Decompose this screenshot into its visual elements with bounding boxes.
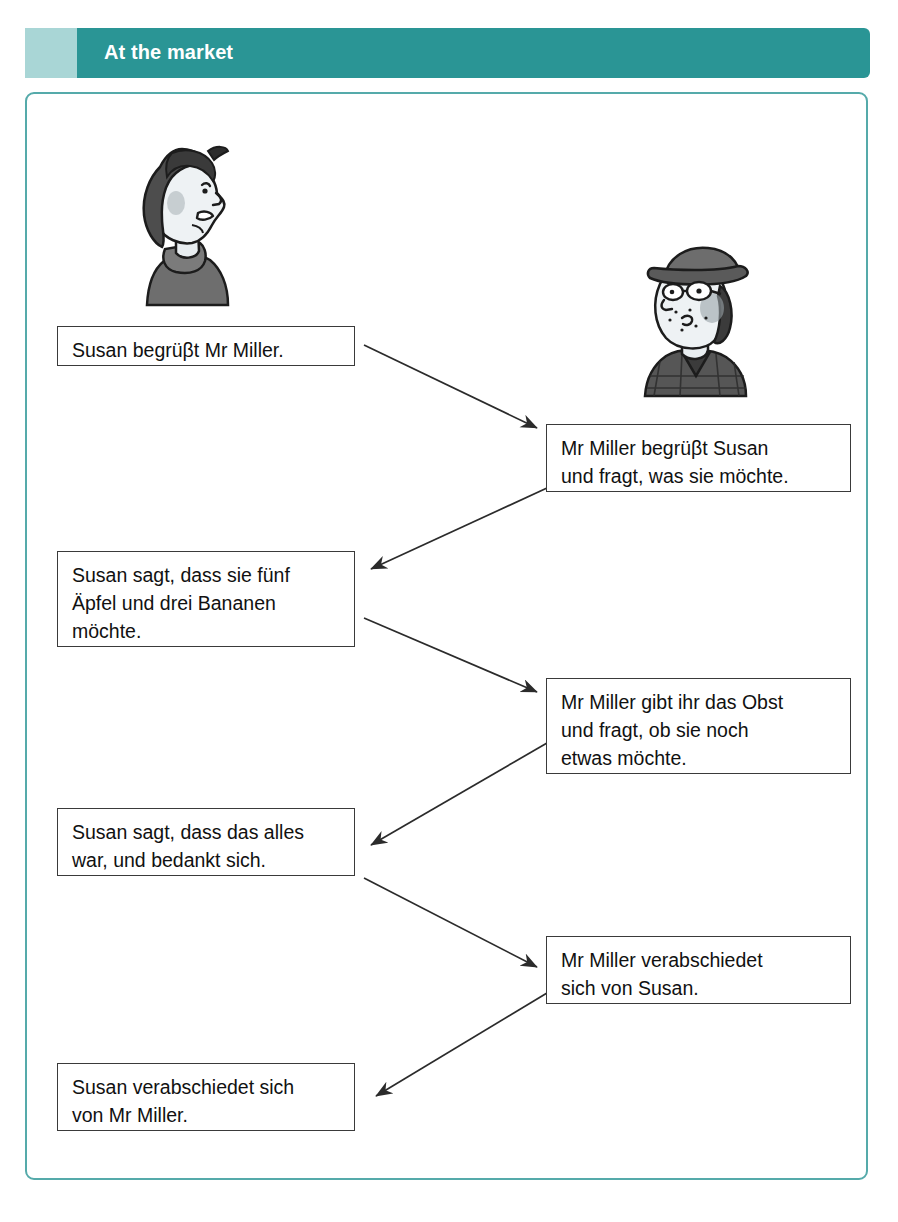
flow-step-box-3[interactable]: Susan sagt, dass sie fünf Äpfel und drei… xyxy=(57,551,355,647)
flow-step-box-2[interactable]: Mr Miller begrüβt Susan und fragt, was s… xyxy=(546,424,851,492)
susan-portrait-icon xyxy=(120,133,245,308)
flow-step-box-7[interactable]: Susan verabschiedet sich von Mr Miller. xyxy=(57,1063,355,1131)
flow-step-box-4[interactable]: Mr Miller gibt ihr das Obst und fragt, o… xyxy=(546,678,851,774)
flow-step-box-6[interactable]: Mr Miller verabschiedet sich von Susan. xyxy=(546,936,851,1004)
flow-step-box-1[interactable]: Susan begrüβt Mr Miller. xyxy=(57,326,355,366)
mr-miller-portrait-icon xyxy=(620,226,768,398)
flow-step-box-5[interactable]: Susan sagt, dass das alles war, und beda… xyxy=(57,808,355,876)
page-title: At the market xyxy=(104,41,233,64)
worksheet-page: At the market xyxy=(0,0,898,1222)
header-accent-tab xyxy=(25,28,77,78)
